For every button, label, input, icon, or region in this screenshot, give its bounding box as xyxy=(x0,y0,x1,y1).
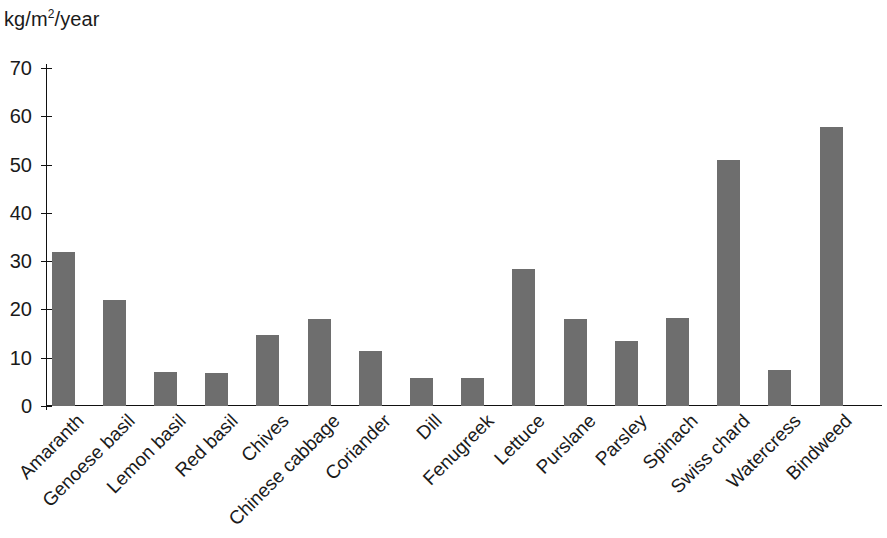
bar[interactable] xyxy=(615,341,638,406)
y-axis-tick-label: 60 xyxy=(10,106,32,126)
y-axis-tick-label: 40 xyxy=(10,203,32,223)
bar[interactable] xyxy=(103,300,126,406)
bar-chart: kg/m2/year 010203040506070 AmaranthGenoe… xyxy=(0,0,887,538)
bar-series xyxy=(46,68,882,406)
bar[interactable] xyxy=(308,319,331,406)
bar[interactable] xyxy=(768,370,791,406)
bar[interactable] xyxy=(205,373,228,406)
bar[interactable] xyxy=(154,372,177,406)
bar[interactable] xyxy=(359,351,382,406)
y-axis-tick: 0 xyxy=(41,406,52,407)
y-axis-tick-label: 0 xyxy=(21,396,32,416)
bar[interactable] xyxy=(410,378,433,406)
y-axis-tick-label: 10 xyxy=(10,348,32,368)
bar[interactable] xyxy=(666,318,689,406)
y-axis-tick-label: 30 xyxy=(10,251,32,271)
bar[interactable] xyxy=(512,269,535,406)
bar[interactable] xyxy=(52,252,75,407)
bar[interactable] xyxy=(564,319,587,406)
y-axis-tick-label: 70 xyxy=(10,58,32,78)
y-axis-unit-superscript: 2 xyxy=(48,7,55,21)
y-axis-unit-label: kg/m2/year xyxy=(4,8,100,30)
y-axis-tick-label: 20 xyxy=(10,299,32,319)
y-axis-unit-prefix: kg/m xyxy=(4,8,48,30)
bar[interactable] xyxy=(461,378,484,406)
y-axis-unit-suffix: /year xyxy=(55,8,100,30)
x-axis-label: Dill xyxy=(413,410,447,444)
bar[interactable] xyxy=(256,335,279,406)
bar[interactable] xyxy=(717,160,740,406)
y-axis-tick-label: 50 xyxy=(10,155,32,175)
bar[interactable] xyxy=(820,127,843,406)
plot-area: 010203040506070 xyxy=(46,68,882,406)
x-axis-labels: AmaranthGenoese basilLemon basilRed basi… xyxy=(46,410,887,538)
